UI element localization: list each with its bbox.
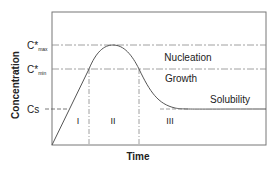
phase-ii-label: II [110,116,115,126]
y-axis-title: Concentration [10,51,21,119]
growth-label: Growth [165,73,197,84]
nucleation-label: Nucleation [164,52,211,63]
supersaturation-diagram: C*max C*min Cs Nucleation Growth Solubil… [0,0,280,170]
cmax-label: C*max [27,40,48,52]
solubility-label: Solubility [210,94,250,105]
phase-iii-label: III [166,116,174,126]
cmin-label: C*min [27,64,46,76]
cs-label: Cs [27,104,39,115]
x-axis-title: Time [126,151,150,162]
phase-i-label: I [77,116,80,126]
